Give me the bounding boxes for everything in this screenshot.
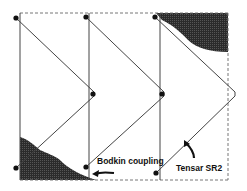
- node: [152, 14, 157, 19]
- node: [83, 14, 88, 19]
- shaded-region-bottom-left: [20, 137, 96, 180]
- node: [83, 164, 88, 169]
- bodkin-coupling-label: Bodkin coupling: [97, 156, 164, 166]
- node: [13, 165, 18, 170]
- node: [153, 170, 158, 175]
- shaded-region-top-right: [156, 13, 228, 52]
- node: [159, 91, 164, 96]
- node: [13, 15, 18, 20]
- bodkin-coupling-arrowhead: [92, 170, 99, 177]
- geogrid-coupling-diagram: Bodkin coupling Tensar SR2: [0, 0, 247, 191]
- zigzag-2: [86, 17, 164, 167]
- tensar-sr2-label: Tensar SR2: [176, 163, 222, 173]
- node: [90, 91, 95, 96]
